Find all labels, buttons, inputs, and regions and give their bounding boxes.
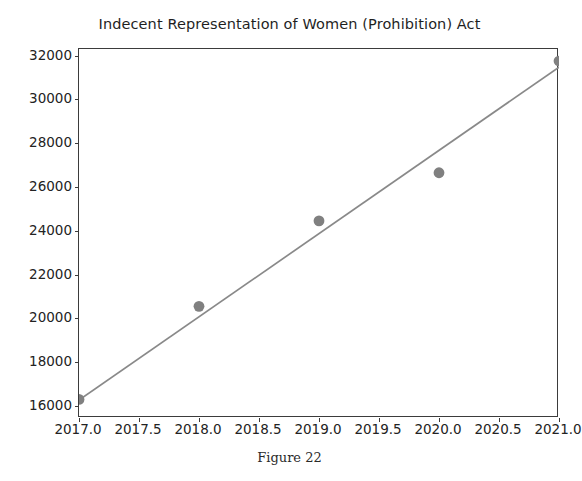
y-tick-label: 32000 [29, 47, 72, 63]
y-tick-mark [75, 187, 79, 188]
y-tick-label: 24000 [29, 222, 72, 238]
y-axis-tick-labels: 1600018000200002200024000260002800030000… [0, 48, 72, 417]
y-tick-label: 30000 [29, 90, 72, 106]
x-tick-label: 2017.0 [54, 421, 101, 437]
x-tick-label: 2021.0 [534, 421, 581, 437]
y-tick-mark [75, 362, 79, 363]
figure-caption: Figure 22 [0, 450, 579, 465]
y-tick-mark [75, 99, 79, 100]
data-point-markers [79, 56, 559, 405]
x-tick-label: 2019.5 [354, 421, 401, 437]
y-tick-mark [75, 318, 79, 319]
data-point [554, 56, 559, 67]
data-point [79, 394, 84, 405]
y-tick-mark [75, 275, 79, 276]
chart-title: Indecent Representation of Women (Prohib… [0, 14, 579, 34]
y-tick-mark [75, 56, 79, 57]
x-tick-label: 2018.0 [174, 421, 221, 437]
y-tick-label: 18000 [29, 353, 72, 369]
x-tick-label: 2020.0 [414, 421, 461, 437]
data-point [314, 216, 325, 227]
y-tick-label: 28000 [29, 134, 72, 150]
x-axis-tick-labels: 2017.02017.52018.02018.52019.02019.52020… [78, 421, 558, 443]
plot-area [78, 48, 558, 417]
y-tick-label: 22000 [29, 266, 72, 282]
y-tick-mark [75, 231, 79, 232]
plot-canvas [79, 49, 559, 418]
x-tick-label: 2017.5 [114, 421, 161, 437]
y-tick-label: 26000 [29, 178, 72, 194]
trend-line-path [79, 67, 559, 400]
y-tick-label: 20000 [29, 309, 72, 325]
x-tick-label: 2020.5 [474, 421, 521, 437]
data-point [434, 167, 445, 178]
y-tick-label: 16000 [29, 397, 72, 413]
data-point [194, 301, 205, 312]
y-tick-mark [75, 143, 79, 144]
y-tick-mark [75, 406, 79, 407]
x-tick-label: 2018.5 [234, 421, 281, 437]
x-tick-label: 2019.0 [294, 421, 341, 437]
trend-line [79, 67, 559, 400]
